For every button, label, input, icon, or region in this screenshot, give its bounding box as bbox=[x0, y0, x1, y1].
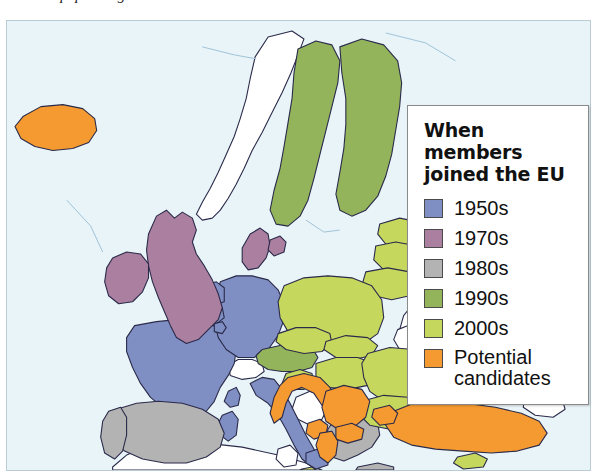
legend-label-1970s: 1970s bbox=[454, 227, 509, 249]
legend-label-1990s: 1990s bbox=[454, 287, 509, 309]
legend-swatch-2000s bbox=[424, 319, 443, 338]
legend-item-2000s[interactable]: 2000s bbox=[424, 317, 578, 339]
legend-swatch-1990s bbox=[424, 289, 443, 308]
map-figure: and populating .b{stroke:#2a2a4a;stroke-… bbox=[0, 0, 595, 471]
legend-swatch-1950s bbox=[424, 199, 443, 218]
legend-label-potential-candidates: Potential candidates bbox=[454, 347, 578, 389]
legend-item-1950s[interactable]: 1950s bbox=[424, 197, 578, 219]
figure-caption: and populating bbox=[34, 0, 125, 4]
legend-item-potential-candidates[interactable]: Potential candidates bbox=[424, 347, 578, 389]
legend-swatch-1970s bbox=[424, 229, 443, 248]
legend-item-1970s[interactable]: 1970s bbox=[424, 227, 578, 249]
legend-swatch-potential-candidates bbox=[424, 349, 443, 368]
legend-label-1950s: 1950s bbox=[454, 197, 509, 219]
legend-item-1990s[interactable]: 1990s bbox=[424, 287, 578, 309]
legend-label-1980s: 1980s bbox=[454, 257, 509, 279]
legend-title: When members joined the EU bbox=[424, 119, 578, 185]
legend-item-1980s[interactable]: 1980s bbox=[424, 257, 578, 279]
legend-swatch-1980s bbox=[424, 259, 443, 278]
map-legend: When members joined the EU 1950s 1970s 1… bbox=[407, 105, 589, 405]
legend-label-2000s: 2000s bbox=[454, 317, 509, 339]
